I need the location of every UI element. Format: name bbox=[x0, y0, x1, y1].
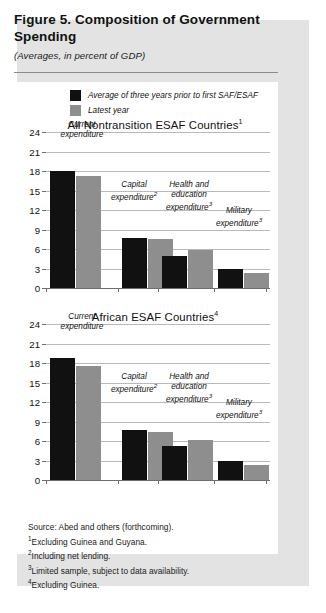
bar-c1-g1-s1 bbox=[50, 171, 75, 288]
footnotes: Source: Abed and others (forthcoming).1E… bbox=[28, 522, 278, 592]
footnote-marker-3: 3 bbox=[28, 564, 32, 571]
gridline-18 bbox=[46, 363, 270, 364]
chart-legend: Average of three years prior to first SA… bbox=[70, 89, 258, 119]
chart-1-title-note: 1 bbox=[238, 118, 242, 125]
chart-1-title-text: All Nontransition ESAF Countries bbox=[68, 119, 239, 131]
y-tick-label-3: 3 bbox=[12, 263, 40, 274]
page-title: Figure 5. Composition of Government Spen… bbox=[14, 12, 276, 45]
title-block: Figure 5. Composition of Government Spen… bbox=[14, 12, 276, 61]
chart-african-esaf: African ESAF Countries4 03691215182124 C… bbox=[14, 310, 278, 500]
category-label-c2-g4: Militaryexpenditure3 bbox=[206, 398, 272, 421]
bar-c1-g4-s1 bbox=[218, 269, 243, 288]
category-label-c1-g4: Militaryexpenditure3 bbox=[206, 206, 272, 229]
y-tick-label-0: 0 bbox=[12, 283, 40, 294]
y-tickmark-24 bbox=[42, 132, 46, 133]
chart-2-title: African ESAF Countries4 bbox=[14, 310, 278, 323]
y-tickmark-21 bbox=[42, 152, 46, 153]
legend-item-latest: Latest year bbox=[70, 104, 258, 117]
footnote-marker-2: 2 bbox=[28, 549, 32, 556]
y-tickmark-6 bbox=[42, 441, 46, 442]
y-tick-label-18: 18 bbox=[12, 358, 40, 369]
y-tickmark-15 bbox=[42, 191, 46, 192]
footnote-4: 4Excluding Guinea. bbox=[28, 577, 278, 592]
chart-2-y-axis: 03691215182124 bbox=[14, 324, 44, 480]
bar-c2-g3-s1 bbox=[162, 446, 187, 480]
y-tick-label-6: 6 bbox=[12, 244, 40, 255]
x-tickmark-4 bbox=[214, 288, 215, 292]
x-tickmark-3 bbox=[158, 480, 159, 484]
y-tickmark-3 bbox=[42, 269, 46, 270]
y-tick-label-12: 12 bbox=[12, 205, 40, 216]
bar-c2-g3-s2 bbox=[188, 440, 213, 480]
legend-label-prior: Average of three years prior to first SA… bbox=[88, 91, 258, 100]
y-tick-label-12: 12 bbox=[12, 397, 40, 408]
y-tickmark-9 bbox=[42, 230, 46, 231]
footnote-1: 1Excluding Guinea and Guyana. bbox=[28, 534, 278, 549]
bar-c2-g1-s1 bbox=[50, 358, 75, 480]
x-tickmark-2 bbox=[118, 480, 119, 484]
y-tickmark-21 bbox=[42, 344, 46, 345]
chart-2-title-text: African ESAF Countries bbox=[92, 311, 214, 323]
legend-label-latest: Latest year bbox=[88, 106, 129, 115]
y-tick-label-6: 6 bbox=[12, 436, 40, 447]
y-tickmark-6 bbox=[42, 249, 46, 250]
gridline-21 bbox=[46, 152, 270, 153]
y-tick-label-3: 3 bbox=[12, 455, 40, 466]
gray-swatch-icon bbox=[70, 105, 81, 116]
bar-c1-g3-s1 bbox=[162, 256, 187, 288]
y-tickmark-9 bbox=[42, 422, 46, 423]
chart-card: Average of three years prior to first SA… bbox=[14, 82, 278, 554]
footnote-2: 2Including net lending. bbox=[28, 548, 278, 563]
y-tickmark-24 bbox=[42, 324, 46, 325]
bar-c2-g4-s2 bbox=[244, 465, 269, 480]
x-tickmark-1 bbox=[46, 288, 47, 292]
bar-c1-g4-s2 bbox=[244, 273, 269, 288]
y-tick-label-0: 0 bbox=[12, 475, 40, 486]
y-tickmark-15 bbox=[42, 383, 46, 384]
x-tickmark-2 bbox=[118, 288, 119, 292]
gridline-21 bbox=[46, 344, 270, 345]
y-tick-label-21: 21 bbox=[12, 146, 40, 157]
chart-all-nontransition: All Nontransition ESAF Countries1 036912… bbox=[14, 118, 278, 308]
y-tick-label-18: 18 bbox=[12, 166, 40, 177]
title-divider bbox=[14, 72, 278, 73]
y-tickmark-3 bbox=[42, 461, 46, 462]
dark-swatch-icon bbox=[70, 90, 81, 101]
bar-c2-g4-s1 bbox=[218, 461, 243, 481]
source-note: Source: Abed and others (forthcoming). bbox=[28, 522, 278, 534]
x-tickmark-1 bbox=[46, 480, 47, 484]
y-tickmark-18 bbox=[42, 363, 46, 364]
chart-2-title-note: 4 bbox=[214, 310, 218, 317]
y-tickmark-12 bbox=[42, 402, 46, 403]
chart-1-title: All Nontransition ESAF Countries1 bbox=[14, 118, 278, 131]
y-tickmark-18 bbox=[42, 171, 46, 172]
x-tickmark-4 bbox=[214, 480, 215, 484]
y-tick-label-15: 15 bbox=[12, 377, 40, 388]
footnote-3: 3Limited sample, subject to data availab… bbox=[28, 563, 278, 578]
footnote-marker-1: 1 bbox=[28, 535, 32, 542]
y-tick-label-9: 9 bbox=[12, 224, 40, 235]
chart-1-y-axis: 03691215182124 bbox=[14, 132, 44, 288]
y-tickmark-12 bbox=[42, 210, 46, 211]
gridline-18 bbox=[46, 171, 270, 172]
legend-item-prior: Average of three years prior to first SA… bbox=[70, 89, 258, 102]
footnote-marker-4: 4 bbox=[28, 578, 32, 585]
y-tick-label-9: 9 bbox=[12, 416, 40, 427]
figure-page: Figure 5. Composition of Government Spen… bbox=[0, 0, 326, 613]
chart-1-plot: CurrentexpenditureCapitalexpenditure2Hea… bbox=[46, 132, 270, 288]
figure-subtitle: (Averages, in percent of GDP) bbox=[14, 50, 276, 61]
bar-c1-g3-s2 bbox=[188, 250, 213, 288]
x-tickmark-3 bbox=[158, 288, 159, 292]
x-tickmark-end bbox=[266, 288, 267, 292]
y-tick-label-15: 15 bbox=[12, 185, 40, 196]
bar-c2-g2-s1 bbox=[122, 430, 147, 480]
x-tickmark-end bbox=[266, 480, 267, 484]
y-tick-label-21: 21 bbox=[12, 338, 40, 349]
chart-2-plot: CurrentexpenditureCapitalexpenditure2Hea… bbox=[46, 324, 270, 480]
bar-c1-g2-s1 bbox=[122, 238, 147, 288]
